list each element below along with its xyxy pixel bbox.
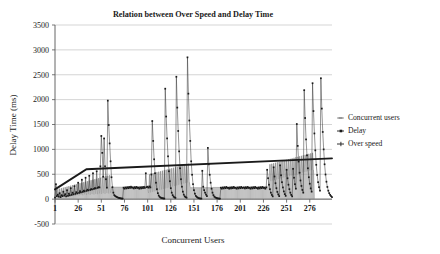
series-delay-point xyxy=(167,155,169,157)
series-delay-point xyxy=(331,196,333,198)
series-delay-point xyxy=(219,198,221,200)
series-delay-point xyxy=(277,194,279,196)
series-delay-point xyxy=(105,178,107,180)
x-tick-label: 76 xyxy=(120,204,128,213)
y-tick-label: 2500 xyxy=(33,71,49,80)
series-delay-point xyxy=(100,135,102,137)
series-delay-point xyxy=(299,172,301,174)
series-delay-point xyxy=(170,187,172,189)
series-delay-point xyxy=(187,56,189,58)
series-delay-point xyxy=(54,197,56,199)
series-delay-point xyxy=(163,198,165,200)
series-delay-point xyxy=(210,182,212,184)
series-delay-point xyxy=(72,192,74,194)
series-delay-point xyxy=(172,194,174,196)
series-delay-point xyxy=(267,177,269,179)
y-tick-label: 1500 xyxy=(33,120,49,129)
series-delay-point xyxy=(179,167,181,169)
series-delay-point xyxy=(164,88,166,90)
series-delay-point xyxy=(176,107,178,109)
series-delay-point xyxy=(74,185,76,187)
series-delay-point xyxy=(92,172,94,174)
series-delay-point xyxy=(81,179,83,181)
y-tick-label: 0 xyxy=(45,195,49,204)
legend-label: Delay xyxy=(348,126,366,135)
y-tick-label: 3000 xyxy=(33,46,49,55)
series-delay-point xyxy=(188,120,190,122)
series-delay-point xyxy=(318,186,320,188)
series-delay-point xyxy=(99,187,101,189)
series-delay-point xyxy=(59,192,61,194)
series-delay-point xyxy=(102,176,104,178)
y-tick-label: 2000 xyxy=(33,95,49,104)
series-delay-point xyxy=(65,196,67,198)
series-delay-point xyxy=(320,77,322,79)
series-delay-point xyxy=(207,147,209,149)
series-delay-point xyxy=(328,192,330,194)
series-delay-point xyxy=(297,145,299,147)
line-dot-icon xyxy=(340,130,343,133)
series-delay-point xyxy=(282,187,284,189)
series-delay-point xyxy=(108,124,110,126)
series-delay-point xyxy=(303,89,305,91)
y-tick-label: -500 xyxy=(34,220,49,229)
series-delay-point xyxy=(270,192,272,194)
series-delay-point xyxy=(300,180,302,182)
series-delay-point xyxy=(301,185,303,187)
series-delay-point xyxy=(310,188,312,190)
series-delay-point xyxy=(194,193,196,195)
series-delay-point xyxy=(284,193,286,195)
series-delay-point xyxy=(73,194,75,196)
series-delay-point xyxy=(292,168,294,170)
series-delay-point xyxy=(56,195,58,197)
series-delay-point xyxy=(322,131,324,133)
series-delay-point xyxy=(327,190,329,192)
series-delay-point xyxy=(269,188,271,190)
chart-legend: Concurrent usersDelayOver speed xyxy=(337,113,400,148)
x-tick-label: 151 xyxy=(188,204,200,213)
legend-item: Concurrent users xyxy=(337,113,400,122)
series-delay-point xyxy=(283,191,285,193)
series-delay-point xyxy=(324,163,326,165)
series-delay-point xyxy=(202,186,204,188)
series-delay-point xyxy=(266,169,268,171)
y-tick-label: 500 xyxy=(37,170,49,179)
series-delay-point xyxy=(275,182,277,184)
series-delay-point xyxy=(311,191,313,193)
series-delay-point xyxy=(151,174,153,176)
series-delay-point xyxy=(291,196,293,198)
series-delay-point xyxy=(107,100,109,102)
series-delay-point xyxy=(150,187,152,189)
series-delay-point xyxy=(110,160,112,162)
series-delay-point xyxy=(80,192,82,194)
series-delay-point xyxy=(177,130,179,132)
series-delay-point xyxy=(69,195,71,197)
x-tick-label: 101 xyxy=(142,204,154,213)
series-delay-point xyxy=(165,116,167,118)
x-tick-label: 226 xyxy=(257,204,269,213)
series-delay-point xyxy=(280,174,282,176)
series-delay-point xyxy=(182,191,184,193)
series-delay-point xyxy=(62,195,64,197)
series-delay-point xyxy=(319,190,321,192)
series-delay-point xyxy=(58,196,60,198)
series-delay-point xyxy=(188,93,190,95)
series-delay-point xyxy=(189,140,191,142)
x-tick-label: 251 xyxy=(281,204,293,213)
series-delay-point xyxy=(314,150,316,152)
series-delay-point xyxy=(325,174,327,176)
series-delay-point xyxy=(101,152,103,154)
series-delay-point xyxy=(84,191,86,193)
series-delay-point xyxy=(57,194,59,196)
series-delay-point xyxy=(205,194,207,196)
chart-container: 3500300025002000150010005000-500 1265176… xyxy=(0,0,440,254)
series-delay-point xyxy=(203,189,205,191)
series-delay-point xyxy=(276,191,278,193)
series-delay-point xyxy=(71,194,73,196)
series-delay-point xyxy=(281,181,283,183)
y-axis-label: Delay Time (ms) xyxy=(8,94,18,155)
series-delay-point xyxy=(213,194,215,196)
series-delay-point xyxy=(88,175,90,177)
series-delay-point xyxy=(286,169,288,171)
series-delay-point xyxy=(168,170,170,172)
